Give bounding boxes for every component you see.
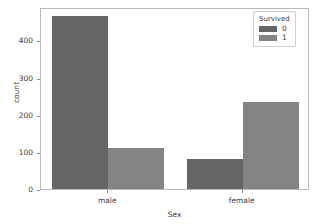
legend-label: 1 <box>282 34 287 42</box>
chart-figure: count 4003002001000 malefemale Sex Survi… <box>0 0 317 224</box>
legend-item-1: 1 <box>259 34 290 42</box>
y-tick-label: 300 <box>0 75 33 83</box>
legend-swatch-icon <box>259 35 277 41</box>
legend-swatch-icon <box>259 26 277 32</box>
legend-label: 0 <box>282 25 287 33</box>
bar-male-survived-1 <box>108 148 164 189</box>
y-tick-mark <box>37 190 40 191</box>
x-tick-label: male <box>67 196 147 205</box>
legend-item-0: 0 <box>259 25 290 33</box>
legend-title: Survived <box>259 15 290 23</box>
bar-male-survived-0 <box>52 16 108 189</box>
y-tick-label: 0 <box>0 186 33 194</box>
x-tick-mark <box>107 190 108 193</box>
x-tick-label: female <box>202 196 282 205</box>
x-tick-mark <box>242 190 243 193</box>
y-tick-label: 200 <box>0 112 33 120</box>
x-axis-label: Sex <box>40 210 309 219</box>
legend-items: 01 <box>259 25 290 42</box>
bar-female-survived-1 <box>243 102 299 189</box>
y-tick-label: 100 <box>0 149 33 157</box>
y-tick-label: 400 <box>0 37 33 45</box>
legend: Survived 01 <box>253 11 296 47</box>
bar-female-survived-0 <box>187 159 243 189</box>
